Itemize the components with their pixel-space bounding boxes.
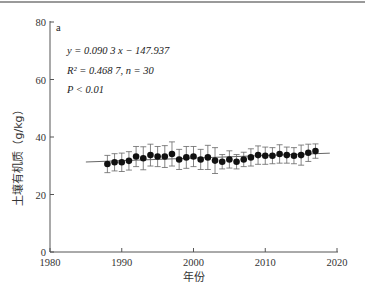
data-point [291,152,298,159]
y-axis-title: 土壤有机质（g/kg） [11,104,25,205]
data-point [212,157,219,164]
data-point [255,152,262,159]
data-point [104,161,111,168]
data-point [169,151,176,158]
data-point [240,156,247,163]
x-tick-label: 2000 [183,257,204,268]
data-point [219,158,226,165]
y-tick-label: 20 [36,190,47,201]
scatter-chart: 020406080 19801990200020102020 a y = 0.0… [0,0,365,302]
data-point [305,150,312,157]
data-point [262,152,269,159]
x-axis-ticks: 19801990200020102020 [40,248,348,268]
data-point [126,158,133,165]
p-value-label: P < 0.01 [66,84,104,95]
y-tick-label: 60 [36,75,47,86]
regression-equation: y = 0.090 3 x − 147.937 [66,45,170,56]
data-point [269,152,276,159]
data-point [133,153,140,160]
data-point [183,154,190,161]
panel-label: a [56,22,61,33]
x-tick-label: 1980 [40,257,61,268]
data-point [298,152,305,159]
y-axis-ticks: 020406080 [36,17,55,258]
r-squared-label: R² = 0.468 7, n = 30 [66,65,154,76]
data-point [111,159,118,166]
x-axis-title: 年份 [183,270,205,284]
x-tick-label: 1990 [111,257,132,268]
data-point [226,156,233,163]
data-point [312,148,319,155]
data-point [283,152,290,159]
data-point [205,154,212,161]
data-point [276,151,283,158]
x-tick-label: 2020 [327,257,348,268]
data-point [190,153,197,160]
data-point [197,156,204,163]
data-point [140,155,147,162]
data-point [162,153,169,160]
y-tick-label: 80 [36,17,47,28]
data-point [147,152,154,159]
x-tick-label: 2010 [255,257,276,268]
data-point [154,153,161,160]
data-point [118,159,125,166]
y-tick-label: 40 [36,132,47,143]
data-point [176,156,183,163]
data-point [233,158,240,165]
data-point [248,154,255,161]
